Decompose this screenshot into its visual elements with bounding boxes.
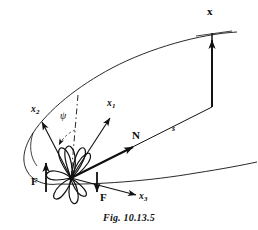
figure-container: x N s x1 x2 x3 ψ F F Fig. 10.13.5 [0, 0, 258, 230]
arclength-label: s [172, 125, 175, 133]
axis-x2-label: x2 [31, 105, 40, 116]
normal-vector-arrow [71, 147, 133, 178]
axis-x3-label: x3 [139, 192, 148, 203]
psi-angle-arc [59, 130, 75, 145]
axis-x1-label: x1 [107, 99, 116, 110]
force-right-label: F [100, 192, 107, 203]
axis-x1-index: 1 [112, 102, 116, 110]
rotor-lobes [46, 146, 90, 204]
x-vector-label: x [207, 6, 213, 17]
axis-x3-index: 3 [144, 195, 148, 203]
force-left-label: F [31, 176, 38, 187]
psi-angle-label: ψ [60, 111, 66, 121]
axis-x2-index: 2 [36, 108, 40, 116]
figure-caption: Fig. 10.13.5 [0, 212, 258, 223]
surface-lower-edge [58, 162, 257, 184]
surface-inner-fold [31, 133, 37, 166]
surface-top-tick [196, 31, 232, 36]
surface-left-fold [24, 133, 58, 184]
origin-hub [69, 176, 73, 180]
normal-vector-label: N [132, 130, 140, 141]
